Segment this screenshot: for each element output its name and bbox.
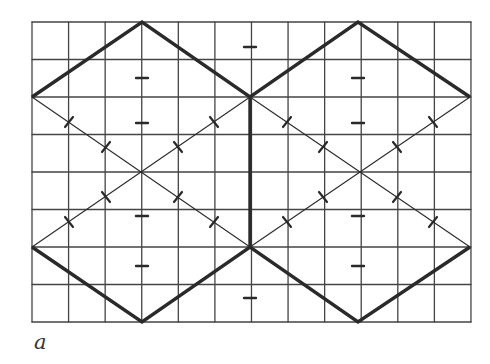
tick-mark: [319, 142, 327, 152]
tick-mark: [393, 192, 401, 202]
tick-mark: [429, 217, 437, 227]
tick-mark: [283, 217, 291, 227]
tick-mark: [319, 192, 327, 202]
tick-mark: [429, 117, 437, 127]
tick-mark: [393, 142, 401, 152]
figure-label: a: [34, 330, 47, 354]
tick-mark: [210, 217, 218, 227]
tick-mark: [283, 117, 291, 127]
diagram-canvas: [0, 0, 490, 364]
tick-mark: [210, 117, 218, 127]
